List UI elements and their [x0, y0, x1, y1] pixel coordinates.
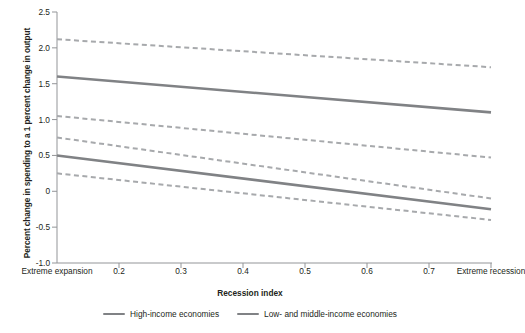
legend-item-low-middle-income: Low- and middle-income economies: [237, 309, 397, 319]
legend-label: High-income economies: [130, 309, 219, 319]
series-low-middle-income-upper-band: [57, 138, 491, 199]
series-high-income-upper-band: [57, 39, 491, 67]
series-high-income-line: [57, 77, 491, 113]
legend-swatch-icon: [103, 313, 125, 315]
y-axis-ticks: [52, 12, 57, 263]
chart-legend: High-income economies Low- and middle-in…: [0, 309, 500, 319]
x-axis-label: Recession index: [0, 288, 500, 298]
axis-lines: [57, 12, 492, 263]
x-axis-ticks: [119, 263, 491, 268]
series-low-middle-income-lower-band: [57, 173, 491, 220]
series-low-middle-income-line: [57, 155, 491, 209]
legend-label: Low- and middle-income economies: [264, 309, 397, 319]
series-high-income-lower-band: [57, 116, 491, 158]
legend-swatch-icon: [237, 313, 259, 315]
legend-item-high-income: High-income economies: [103, 309, 219, 319]
